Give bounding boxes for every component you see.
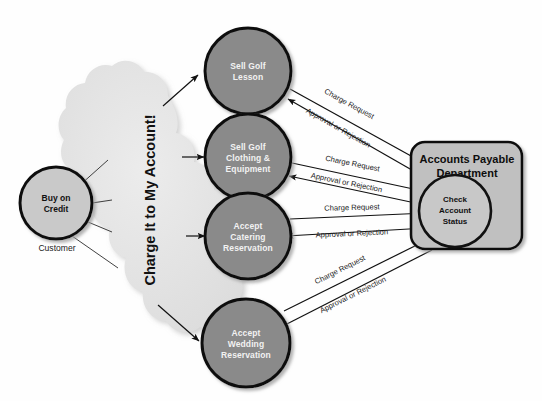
accept-catering-label-line1: Accept: [234, 221, 263, 231]
diagram-canvas: Charge It to My Account! Charge Request …: [0, 0, 542, 401]
buy-on-credit-label-line2: Credit: [44, 204, 69, 214]
sell-golf-clothing-label-line3: Equipment: [226, 164, 271, 174]
edge-label-charge-request-2: Charge Request: [325, 154, 382, 174]
edge-label-charge-request-4: Charge Request: [313, 253, 367, 286]
sell-golf-lesson-circle[interactable]: [205, 28, 291, 114]
accept-wedding-label-line3: Reservation: [221, 350, 271, 360]
edge-label-charge-request-1: Charge Request: [323, 87, 377, 122]
department-title-line1: Accounts Payable: [420, 153, 515, 165]
edge-label-approval-rejection-3: Approval or Rejection: [315, 227, 388, 239]
actor-buy-on-credit[interactable]: Buy on Credit: [20, 167, 92, 239]
cloud-text-group: Charge It to My Account!: [142, 114, 158, 285]
process-node-accept-wedding[interactable]: Accept Wedding Reservation: [202, 299, 290, 387]
accept-catering-label-line3: Reservation: [223, 243, 273, 253]
sell-golf-clothing-label-line2: Clothing &: [226, 153, 270, 163]
arrow-cloud-to-sell-golf-lesson: [163, 75, 198, 106]
accept-wedding-label-line1: Accept: [232, 328, 261, 338]
sell-golf-lesson-label-line2: Lesson: [233, 72, 263, 82]
accounts-payable-department[interactable]: Accounts Payable Department Check Accoun…: [411, 142, 522, 249]
buy-on-credit-circle[interactable]: [20, 167, 92, 239]
customer-label: Customer: [38, 243, 75, 253]
accept-catering-label-line2: Catering: [230, 232, 265, 242]
accept-wedding-label-line2: Wedding: [228, 339, 264, 349]
process-node-accept-catering[interactable]: Accept Catering Reservation: [205, 193, 291, 279]
process-node-sell-golf-lesson[interactable]: Sell Golf Lesson: [205, 28, 291, 114]
sell-golf-clothing-label-line1: Sell Golf: [230, 142, 265, 152]
check-account-status-line3: Status: [443, 217, 468, 226]
check-account-status-line1: Check: [443, 195, 468, 204]
cloud-text: Charge It to My Account!: [142, 114, 158, 285]
sell-golf-lesson-label-line1: Sell Golf: [230, 61, 265, 71]
edge-label-charge-request-3: Charge Request: [324, 202, 380, 212]
buy-on-credit-label-line1: Buy on: [42, 193, 71, 203]
check-account-status-line2: Account: [439, 206, 471, 215]
arrow-charge-request-3: [290, 213, 427, 219]
process-node-sell-golf-clothing[interactable]: Sell Golf Clothing & Equipment: [205, 114, 291, 200]
diagram-svg: Charge It to My Account! Charge Request …: [0, 0, 542, 401]
edge-label-approval-rejection-4: Approval or Rejection: [318, 275, 387, 315]
